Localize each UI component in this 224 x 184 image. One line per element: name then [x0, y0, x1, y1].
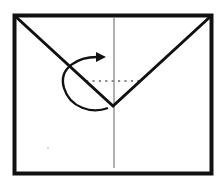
origami-diagram: [0, 0, 224, 184]
speck-mark: [47, 147, 48, 148]
